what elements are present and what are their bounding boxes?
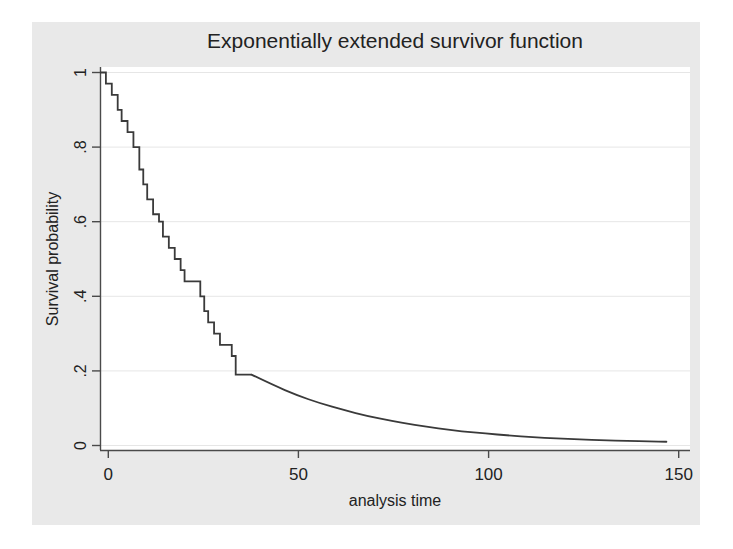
y-tick-label-0.2: .2 (72, 364, 89, 377)
survivor-function-chart[interactable]: Exponentially extended survivor function… (32, 22, 700, 525)
x-tick-marks (108, 450, 678, 458)
figure-canvas: Exponentially extended survivor function… (0, 0, 733, 549)
x-tick-label-50: 50 (289, 465, 308, 484)
x-tick-label-0: 0 (104, 465, 113, 484)
chart-title: Exponentially extended survivor function (207, 29, 583, 52)
y-axis-label: Survival probability (44, 192, 61, 326)
y-tick-label-0: 0 (72, 441, 89, 450)
x-tick-label-150: 150 (665, 465, 693, 484)
plot-area-background (100, 67, 690, 450)
y-tick-label-0.6: .6 (72, 215, 89, 228)
graph-region: Exponentially extended survivor function… (32, 22, 700, 525)
y-tick-label-0.4: .4 (72, 290, 89, 303)
x-axis-label: analysis time (349, 492, 442, 509)
y-tick-label-0.8: .8 (72, 140, 89, 153)
y-tick-marks (92, 73, 100, 446)
x-tick-label-100: 100 (474, 465, 502, 484)
y-tick-label-1: 1 (72, 68, 89, 77)
